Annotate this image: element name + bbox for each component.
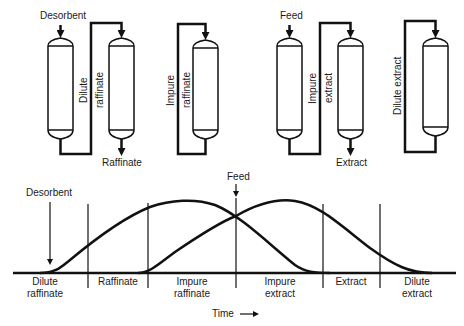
- time-label: Time: [212, 308, 234, 319]
- feed-label: Feed: [280, 10, 303, 21]
- chart-feed-label: Feed: [227, 171, 250, 182]
- dilute-extract-label: Dilute extract: [392, 56, 403, 115]
- column-1: [48, 38, 73, 139]
- raffinate-curve: [40, 201, 330, 273]
- column-6: [423, 38, 448, 136]
- extract-output-label: Extract: [336, 157, 367, 168]
- column-3: [193, 40, 218, 139]
- zone-5-line1: Extract: [335, 276, 366, 287]
- concentration-profile: [13, 184, 456, 314]
- zone-3-line2: raffinate: [174, 288, 210, 299]
- piping: [61, 21, 436, 154]
- zone-1-line1: Dilute: [32, 276, 58, 287]
- raffinate-output-label: Raffinate: [102, 157, 142, 168]
- dilute-raffinate-pipe: [61, 23, 122, 154]
- zone-dividers: [88, 198, 380, 288]
- zone-6-line1: Dilute: [404, 276, 430, 287]
- desorbent-label: Desorbent: [40, 10, 86, 21]
- column-set: [48, 38, 448, 139]
- zone-4-line2: extract: [265, 288, 295, 299]
- zone-6-line2: extract: [402, 288, 432, 299]
- extract-curve: [138, 200, 432, 273]
- column-4: [277, 38, 302, 139]
- zone-1-line2: raffinate: [27, 288, 63, 299]
- zone-2-line1: Raffinate: [98, 276, 138, 287]
- column-5: [338, 38, 363, 139]
- impure-extract-label-1: Impure: [307, 72, 318, 104]
- zone-3-line1: Impure: [176, 276, 208, 287]
- dilute-raffinate-label-1: Dilute: [78, 77, 89, 103]
- column-2: [109, 38, 134, 139]
- impure-extract-label-2: extract: [323, 73, 334, 103]
- dilute-extract-pipe: [405, 21, 436, 152]
- smb-diagram: Desorbent Raffinate Feed Extract Dilute …: [0, 0, 464, 326]
- dilute-raffinate-label-2: raffinate: [94, 72, 105, 108]
- impure-raffinate-label-1: Impure: [165, 74, 176, 106]
- zone-4-line1: Impure: [264, 276, 296, 287]
- impure-extract-pipe: [290, 23, 351, 154]
- impure-raffinate-label-2: raffinate: [181, 72, 192, 108]
- chart-desorbent-label: Desorbent: [26, 187, 72, 198]
